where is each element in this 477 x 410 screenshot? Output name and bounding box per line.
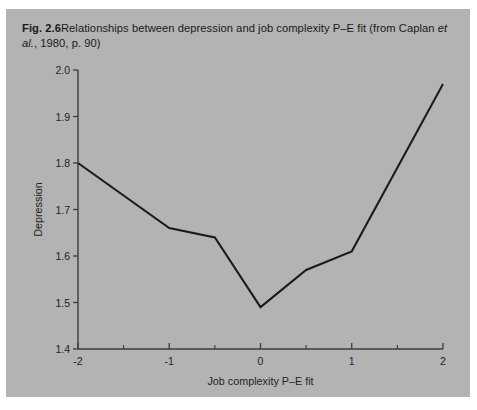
data-series-line [78,84,443,307]
y-axis-tick-label: 1.5 [55,297,70,309]
x-axis-tick-label: -2 [73,355,82,367]
line-chart: 1.41.51.61.71.81.92.0-2-1012Job complexi… [6,9,470,397]
y-axis-tick-label: 1.9 [55,111,70,123]
y-axis-title: Depression [32,182,44,237]
y-axis-tick-label: 1.4 [55,343,70,355]
x-axis-title: Job complexity P–E fit [207,375,313,387]
y-axis-tick-label: 1.8 [55,157,70,169]
y-axis-tick-label: 1.6 [55,250,70,262]
figure-panel: Fig. 2.6Relationships between depression… [6,9,470,397]
x-axis-tick-label: 0 [258,355,264,367]
y-axis-tick-label: 1.7 [55,204,70,216]
y-axis-tick-label: 2.0 [55,64,70,76]
x-axis-tick-label: -1 [165,355,174,367]
x-axis-tick-label: 1 [349,355,355,367]
x-axis-tick-label: 2 [440,355,446,367]
